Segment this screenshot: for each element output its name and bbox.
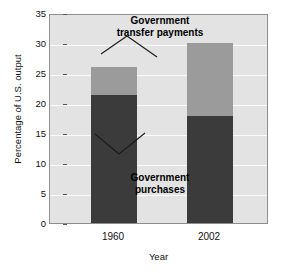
x-tick-label-2002: 2002 <box>179 231 239 242</box>
y-tick-label-35: 35 <box>24 9 46 19</box>
bar-segment-2002-purchases[interactable] <box>187 116 233 223</box>
annotation-government-purchases: Government purchases <box>95 172 225 195</box>
bar-segment-1960-transfer-payments[interactable] <box>91 67 137 95</box>
y-tick-mark-5 <box>63 194 67 195</box>
caption-remnant <box>20 0 260 3</box>
y-tick-mark-20 <box>63 104 67 105</box>
y-tick-mark-35 <box>63 14 67 15</box>
chart-figure: 35 30 25 20 15 10 5 0 Percentage of U.S.… <box>0 0 288 273</box>
y-tick-mark-30 <box>63 44 67 45</box>
x-tick-label-1960: 1960 <box>83 231 143 242</box>
y-tick-label-0: 0 <box>24 219 46 229</box>
x-axis-title: Year <box>49 252 268 262</box>
y-tick-label-15: 15 <box>24 129 46 139</box>
gridline-5 <box>50 195 267 196</box>
gridline-10 <box>50 165 267 166</box>
bar-segment-2002-transfer-payments[interactable] <box>187 43 233 116</box>
y-tick-label-5: 5 <box>24 189 46 199</box>
gridline-25 <box>50 75 267 76</box>
y-tick-label-25: 25 <box>24 69 46 79</box>
bar-group-2002[interactable] <box>187 43 233 223</box>
gridline-30 <box>50 45 267 46</box>
y-tick-mark-0 <box>63 224 67 225</box>
gridline-15 <box>50 135 267 136</box>
y-tick-label-20: 20 <box>24 99 46 109</box>
y-tick-label-10: 10 <box>24 159 46 169</box>
bar-group-1960[interactable] <box>91 67 137 223</box>
annotation-transfer-payments: Government transfer payments <box>95 15 225 38</box>
y-axis-title: Percentage of U.S. output <box>13 34 23 184</box>
y-tick-mark-15 <box>63 134 67 135</box>
y-tick-label-30: 30 <box>24 39 46 49</box>
gridline-20 <box>50 105 267 106</box>
bar-segment-1960-purchases[interactable] <box>91 95 137 223</box>
y-tick-mark-10 <box>63 164 67 165</box>
y-tick-mark-25 <box>63 74 67 75</box>
